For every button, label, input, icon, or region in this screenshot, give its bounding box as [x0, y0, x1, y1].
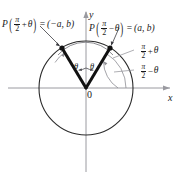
theta-label-left: θ — [74, 62, 78, 71]
arc-lower-theta: θ — [154, 66, 159, 76]
arc-upper-theta: θ — [154, 46, 159, 56]
theta-label-right: θ — [90, 62, 94, 71]
arc-upper-fraction: π 2 — [141, 43, 147, 59]
left-paren-close: ) — [34, 17, 37, 33]
left-equals-sign: = — [40, 20, 45, 30]
right-point-label: P ( π 2 − θ ) = (a, b) — [89, 20, 155, 37]
arc-pi-over-2-minus-theta — [104, 61, 119, 88]
origin-label: 0 — [87, 90, 92, 100]
right-paren-open: ( — [97, 21, 100, 37]
arc-upper-numerator: π — [141, 43, 147, 51]
right-point-function: P — [89, 24, 95, 34]
right-theta-symbol: θ — [115, 24, 120, 34]
theta-arc-left-arrowhead — [79, 68, 82, 71]
left-fraction: π 2 — [14, 16, 20, 33]
x-axis-label: x — [168, 93, 172, 103]
left-fraction-denominator: 2 — [14, 25, 20, 33]
leader-left-arrowhead — [56, 43, 61, 47]
right-point-dot — [107, 45, 112, 50]
y-axis-label: y — [89, 10, 93, 20]
unit-circle-diagram: P ( π 2 + θ ) = (−a, b) P ( π 2 − θ ) = … — [0, 0, 181, 180]
leader-right-arrowhead — [111, 41, 114, 46]
arc-upper-denominator: 2 — [141, 52, 147, 60]
left-paren-open: ( — [10, 17, 13, 33]
right-coordinate-pair: (a, b) — [134, 24, 155, 34]
arc-lower-fraction: π 2 — [141, 63, 147, 79]
right-fraction: π 2 — [101, 20, 107, 37]
right-fraction-numerator: π — [101, 20, 107, 28]
left-point-label: P ( π 2 + θ ) = (−a, b) — [2, 16, 74, 33]
arc-upper-operator: + — [148, 47, 153, 56]
left-coordinate-pair: (−a, b) — [47, 20, 74, 30]
left-operator: + — [22, 20, 27, 29]
right-fraction-denominator: 2 — [101, 29, 107, 37]
x-axis-arrowhead — [163, 85, 170, 90]
leader-line-arc-upper — [113, 50, 134, 58]
left-fraction-numerator: π — [14, 16, 20, 24]
arc-lower-numerator: π — [141, 63, 147, 71]
leader-line-arc-lower — [114, 70, 134, 72]
left-theta-symbol: θ — [28, 20, 33, 30]
right-equals-sign: = — [127, 24, 132, 34]
arc-lower-label: π 2 − θ — [140, 63, 159, 79]
left-point-function: P — [2, 20, 8, 30]
arc-upper-label: π 2 + θ — [140, 43, 159, 59]
right-operator: − — [109, 24, 114, 33]
arc-lower-denominator: 2 — [141, 72, 147, 80]
arc-lower-operator: − — [148, 67, 153, 76]
y-axis-arrowhead — [83, 11, 88, 18]
right-paren-close: ) — [121, 21, 124, 37]
